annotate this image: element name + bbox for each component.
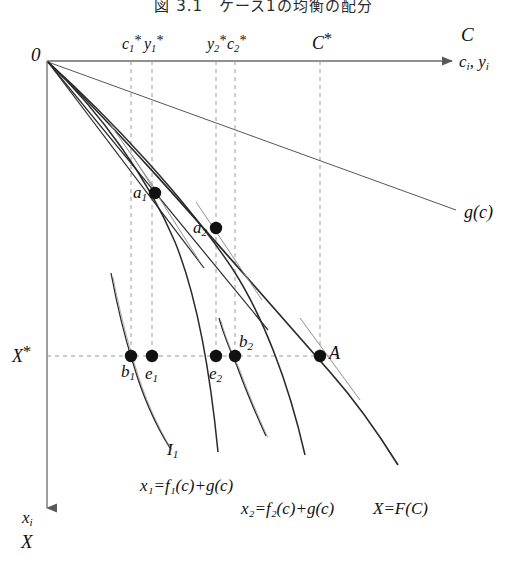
tick-C-star: * [324,30,332,48]
label-I1-sub: 1 [173,448,179,460]
tick-c1-star: * [134,32,141,48]
label-a2-sub: 2 [202,226,208,238]
tick-label-C-star: C* [312,30,332,54]
tick-label-c1-star: c1* [122,32,142,54]
tick-label-y2-star: y2* [207,32,227,54]
level-X-star: * [23,343,31,361]
tick-y1-star: * [156,32,163,48]
label-e2-sub: 2 [217,372,223,384]
curve-label-g-of-c: g(c) [464,202,493,223]
label-b2-main: b [239,332,248,351]
xi-sub: i [30,516,33,528]
label-b1-main: b [121,362,130,381]
point-e2 [210,350,222,362]
tick-label-c2-star: c2* [227,32,247,54]
point-a1 [149,187,161,199]
point-label-b2: b2 [239,332,253,352]
point-label-e2: e2 [209,364,222,384]
point-A [314,350,326,362]
label-a2-main: a [193,218,202,237]
label-a1-main: a [133,183,142,202]
level-label-X-star: X* [12,343,31,367]
curve-x1-equals-f1-plus-g [48,62,218,452]
point-label-a2: a2 [193,218,207,238]
tick-y2-star: * [219,32,226,48]
origin-label: 0 [31,44,41,66]
level-X-main: X [12,346,23,366]
xi-main: x [22,508,30,527]
yi-main: y [478,52,486,71]
point-label-b1: b1 [121,362,135,382]
label-b1-sub: 1 [130,370,136,382]
ray-through-a1 [48,62,204,268]
point-label-e1: e1 [145,364,158,384]
label-e1-sub: 1 [153,372,159,384]
economics-diagram-canvas [0,0,527,564]
curve-X-equals-F-of-C [48,62,398,465]
label-b2-sub: 2 [248,340,254,352]
point-label-A: A [329,343,340,364]
tick-label-y1-star: y1* [144,32,164,54]
axis-horizontal-label-ci-yi: ci, yi [459,52,489,72]
axis-vertical-label-X: X [21,531,33,553]
curve-label-I1: I1 [167,440,178,460]
label-e1-main: e [145,364,153,383]
point-e1 [146,350,158,362]
curve-label-x2-equation: x₂=f₂(c)+g(c) [241,499,334,519]
tick-C-main: C [312,33,324,53]
curve-x2-equals-f2-plus-g [48,62,305,455]
point-a2 [210,222,222,234]
axis-horizontal-label-C: C [461,24,474,46]
ci-main: c [459,52,467,71]
curve-label-X-equation: X=F(C) [373,499,428,519]
label-a1-sub: 1 [142,191,148,203]
point-b1 [125,350,137,362]
curve-label-x1-equation: x₁=f₁(c)+g(c) [140,476,233,496]
tangent-at-a2 [196,202,262,300]
point-label-a1: a1 [133,183,147,203]
yi-sub: i [486,60,489,72]
axis-vertical-label-xi: xi [22,508,33,528]
label-e2-main: e [209,364,217,383]
tick-c2-star: * [239,32,246,48]
